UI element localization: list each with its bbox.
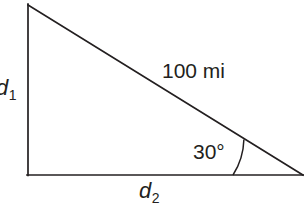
angle-label: 30° [193,141,225,162]
hypotenuse-label: 100 mi [162,60,225,81]
horizontal-leg-label: d2 [139,180,159,202]
triangle-figure: d1 d2 100 mi 30° [0,0,308,208]
vertical-leg-label-subscript: 1 [9,87,17,103]
vertical-leg-label-text: d [0,75,8,100]
horizontal-leg-label-subscript: 2 [152,190,160,206]
triangle-graphic [0,0,308,208]
hypotenuse-line [28,5,303,175]
vertical-leg-label: d1 [0,77,16,99]
angle-arc [233,139,244,175]
horizontal-leg-label-text: d [139,178,151,203]
